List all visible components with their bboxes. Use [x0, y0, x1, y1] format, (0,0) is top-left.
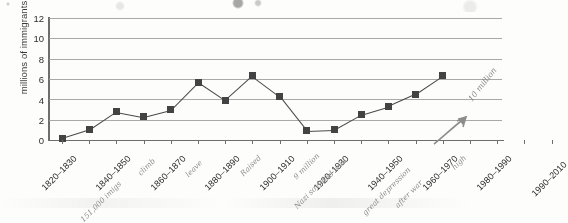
scan-artifact-strip	[0, 0, 532, 12]
data-point	[113, 108, 120, 115]
data-point	[439, 72, 446, 79]
data-point	[358, 111, 365, 118]
data-point	[86, 126, 93, 133]
data-point	[140, 113, 147, 120]
x-tick	[89, 140, 90, 144]
x-tick	[552, 140, 553, 144]
x-tick	[524, 140, 525, 144]
annotation-9-million: 9 million	[292, 151, 322, 181]
scan-smudge	[0, 198, 532, 208]
x-tick	[171, 140, 172, 144]
y-tick-6: 6	[22, 74, 44, 85]
x-tick	[252, 140, 253, 144]
x-tick	[280, 140, 281, 144]
x-tick	[334, 140, 335, 144]
gridline-8	[49, 59, 502, 60]
data-point	[249, 72, 256, 79]
data-point	[167, 106, 174, 113]
gridline-6	[49, 79, 502, 80]
x-tick	[62, 140, 63, 144]
annotation-end-wwi: end wwI	[319, 156, 348, 185]
data-point	[276, 93, 283, 100]
y-tick-8: 8	[22, 54, 44, 65]
x-axis-label: 1880–1890	[203, 153, 242, 192]
y-tick-2: 2	[22, 115, 44, 126]
x-tick	[416, 140, 417, 144]
data-point	[303, 127, 310, 134]
y-tick-12: 12	[22, 13, 44, 24]
x-axis-label: 1990–2010	[529, 159, 568, 198]
x-tick	[198, 140, 199, 144]
data-point	[412, 91, 419, 98]
hand-drawn-trend-arrow	[432, 112, 476, 146]
gridline-10	[49, 38, 502, 39]
data-point	[331, 126, 338, 133]
x-tick	[307, 140, 308, 144]
y-tick-10: 10	[22, 33, 44, 44]
x-tick	[388, 140, 389, 144]
y-tick-0: 0	[22, 135, 44, 146]
x-axis-label: 1820–1830	[40, 153, 79, 192]
x-tick	[361, 140, 362, 144]
x-axis-label: 1980–1990	[475, 153, 514, 192]
x-tick	[116, 140, 117, 144]
annotation-climb: climb	[136, 156, 157, 177]
data-point	[195, 79, 202, 86]
x-tick	[497, 140, 498, 144]
data-point	[385, 103, 392, 110]
line-segment	[170, 82, 198, 110]
x-tick	[144, 140, 145, 144]
data-point	[222, 97, 229, 104]
x-axis-label: 1960–1970	[420, 153, 459, 192]
gridline-12	[49, 18, 502, 19]
y-tick-4: 4	[22, 95, 44, 106]
annotation-raised: Raised	[238, 153, 263, 178]
x-tick	[225, 140, 226, 144]
